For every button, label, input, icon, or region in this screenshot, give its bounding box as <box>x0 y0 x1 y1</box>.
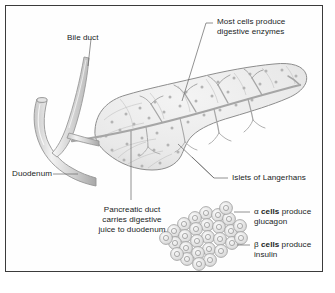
alpha-symbol: α <box>254 207 259 216</box>
label-alpha-cells-line1: α cells produce <box>254 207 311 217</box>
label-bile-duct: Bile duct <box>67 33 99 43</box>
label-pancreatic-duct-line3: juice to duodenum <box>91 225 173 235</box>
leader-islets-b <box>192 157 214 178</box>
pancreas-body <box>95 63 307 170</box>
beta-cells-bold: cells <box>261 240 279 249</box>
label-most-cells-line2: digestive enzymes <box>217 27 284 37</box>
label-beta-cells-line2: insulin <box>254 250 277 260</box>
alpha-cells-bold: cells <box>261 207 279 216</box>
alpha-produce: produce <box>282 207 312 216</box>
label-pancreatic-duct-line1: Pancreatic duct <box>91 205 173 215</box>
label-islets-of-langerhans: Islets of Langerhans <box>232 173 306 183</box>
label-most-cells-line1: Most cells produce <box>217 17 285 27</box>
beta-symbol: β <box>254 240 259 249</box>
bile-duct-tube <box>52 57 99 157</box>
label-beta-cells-line1: β cells produce <box>254 240 311 250</box>
label-duodenum: Duodenum <box>12 169 52 179</box>
label-alpha-cells-line2: glucagon <box>254 217 287 227</box>
beta-produce: produce <box>282 240 312 249</box>
label-pancreatic-duct-line2: carries digestive <box>91 215 173 225</box>
pancreas-diagram: Bile duct Most cells produce digestive e… <box>0 0 335 293</box>
